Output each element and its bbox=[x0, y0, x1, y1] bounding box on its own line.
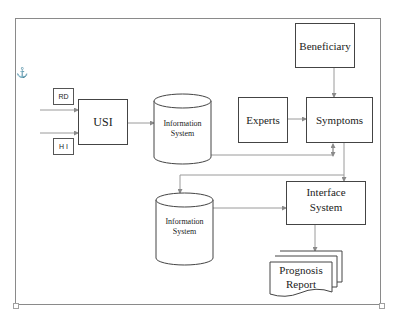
symptoms-label: Symptoms bbox=[316, 114, 363, 126]
symptoms-box: Symptoms bbox=[306, 97, 373, 143]
usi-label: USI bbox=[93, 115, 112, 130]
usi-box: USI bbox=[78, 99, 128, 145]
beneficiary-box: Beneficiary bbox=[295, 23, 355, 68]
experts-box: Experts bbox=[238, 97, 288, 143]
rd-label: RD bbox=[58, 93, 68, 100]
info-system-1-label: Information System bbox=[154, 119, 211, 140]
rd-box: RD bbox=[53, 88, 74, 105]
hi-label: H I bbox=[59, 143, 68, 150]
experts-label: Experts bbox=[246, 114, 280, 126]
info-system-2-label: Information System bbox=[156, 217, 213, 238]
beneficiary-label: Beneficiary bbox=[299, 40, 350, 52]
interface-system-box: Interface System bbox=[286, 181, 366, 225]
hi-box: H I bbox=[53, 138, 74, 155]
prognosis-report-label: Prognosis Report bbox=[270, 264, 332, 292]
